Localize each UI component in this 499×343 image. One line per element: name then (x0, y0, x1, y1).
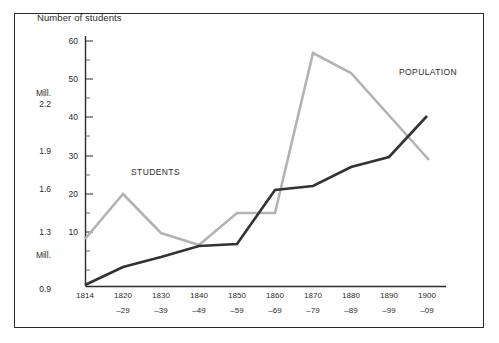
series-line-population (85, 116, 427, 285)
plot-area (0, 0, 499, 343)
chart-figure: Number of students Mill. 2.2 1.9 1.6 1.3… (0, 0, 499, 343)
